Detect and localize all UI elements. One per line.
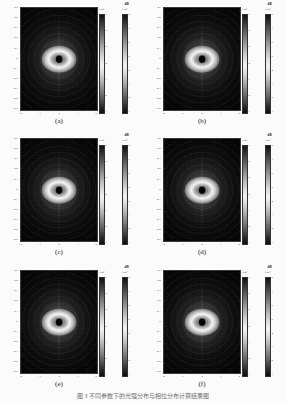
colorbar-multiplier-label: ×10⁴ — [122, 139, 127, 142]
panel-a: 0.50.40.30.20.10-0.1-0.2-0.3-0.4-0.5-2-1… — [0, 0, 143, 131]
colorbar-tick-label: 6 — [129, 173, 130, 176]
x-tick-label: 0 — [59, 112, 60, 115]
colorbar-tick-label: 6 — [272, 305, 273, 308]
colorbar-tick-label: 7 — [272, 28, 273, 31]
colorbar-tick-label: 2 — [106, 95, 107, 98]
y-tick-label: 0.4 — [14, 148, 19, 151]
y-tick-label: -0.1 — [156, 331, 162, 334]
colorbar-tick-label: 4 — [129, 333, 130, 336]
colorbar-tick-label: 2 — [249, 95, 250, 98]
colorbar-multiplier-label: ×10⁴ — [265, 8, 270, 11]
colorbar-unit-label: dB — [125, 3, 129, 6]
colorbar-tick-label: 2 — [272, 360, 273, 363]
colorbar-ticks: 87654321 — [272, 277, 273, 377]
x-tick-label: -2 — [163, 112, 165, 115]
heatmap-field — [21, 8, 97, 110]
colorbar-multiplier-label: ×10⁴ — [99, 8, 104, 11]
colorbar-gradient — [265, 14, 271, 114]
colorbar-tick-label: 3 — [129, 346, 130, 349]
colorbar-tick-label: 8 — [129, 14, 130, 17]
colorbar-tick-label: 3 — [106, 79, 107, 82]
colorbar-tick-label: 4 — [272, 333, 273, 336]
colorbar-tick-label: 7 — [106, 277, 107, 280]
panel-d: 0.50.40.30.20.10-0.1-0.2-0.3-0.4-0.5-2-1… — [143, 131, 286, 262]
colorbar-tick-label: 7 — [249, 145, 250, 148]
x-tick-label: 2 — [239, 112, 240, 115]
y-tick-label: -0.5 — [156, 371, 162, 374]
x-tick-label: -1 — [181, 112, 183, 115]
colorbar-tick-label: 6 — [272, 173, 273, 176]
colorbar-unit-label: dB — [268, 3, 272, 6]
colorbar-tick-label: 3 — [129, 83, 130, 86]
x-tick-label: 0 — [59, 243, 60, 246]
y-tick-label: -0.2 — [156, 209, 162, 212]
colorbar-tick-label: 4 — [272, 201, 273, 204]
y-tick-label: -0.4 — [13, 229, 19, 232]
colorbar-tick-label: 4 — [272, 70, 273, 73]
colorbar-tick-label: 8 — [272, 145, 273, 148]
colorbar-tick-label: 5 — [129, 319, 130, 322]
x-tick-label: 1 — [77, 112, 78, 115]
x-tick-label: -1 — [38, 243, 40, 246]
colorbar-tick-label: 5 — [106, 46, 107, 49]
y-tick-label: -0.2 — [156, 78, 162, 81]
y-axis-ticks: 0.50.40.30.20.10-0.1-0.2-0.3-0.4-0.5 — [0, 270, 19, 374]
y-tick-label: 0.5 — [14, 7, 19, 10]
colorbar-multiplier-label: ×10⁴ — [99, 139, 104, 142]
colorbar-unit-label: dB — [125, 134, 129, 137]
colorbar-tick-label: 5 — [272, 319, 273, 322]
colorbar-gradient — [122, 277, 128, 377]
figure-caption: 图 3 不同参数下的光强分布与相位分布计算结果图 — [0, 392, 286, 403]
colorbar-tick-label: 2 — [129, 97, 130, 100]
y-tick-label: -0.3 — [13, 219, 19, 222]
y-axis-ticks: 0.50.40.30.20.10-0.1-0.2-0.3-0.4-0.5 — [143, 7, 162, 111]
colorbar-tick-label: 6 — [249, 161, 250, 164]
y-tick-label: -0.4 — [156, 229, 162, 232]
y-tick-label: 0.4 — [14, 280, 19, 283]
x-tick-label: 2 — [96, 112, 97, 115]
x-tick-label: 0 — [202, 375, 203, 378]
colorbar-tick-label: 1 — [272, 374, 273, 377]
x-tick-label: 1 — [220, 375, 221, 378]
heatmap-field — [21, 139, 97, 241]
colorbar-tick-label: 2 — [129, 228, 130, 231]
y-tick-label: -0.5 — [13, 371, 19, 374]
x-tick-label: 0 — [59, 375, 60, 378]
y-tick-label: 0.5 — [157, 138, 162, 141]
colorbar-tick-label: 3 — [272, 346, 273, 349]
y-tick-label: 0 — [159, 189, 162, 192]
y-tick-label: 0.2 — [157, 168, 162, 171]
colorbar-multiplier-label: ×10⁴ — [242, 8, 247, 11]
colorbar-gradient — [99, 14, 105, 114]
y-tick-label: 0.4 — [157, 280, 162, 283]
y-tick-label: 0.1 — [14, 179, 19, 182]
x-tick-label: 0 — [202, 243, 203, 246]
x-tick-label: -2 — [163, 375, 165, 378]
y-tick-label: 0.3 — [157, 290, 162, 293]
colorbar-ticks: 87654321 — [129, 277, 130, 377]
y-tick-label: -0.1 — [156, 199, 162, 202]
x-tick-label: 1 — [220, 112, 221, 115]
colorbar-tick-label: 2 — [249, 226, 250, 229]
colorbar-tick-label: 1 — [106, 374, 107, 377]
colorbar-unit-label: dB — [268, 134, 272, 137]
y-tick-label: 0.2 — [157, 37, 162, 40]
y-tick-label: 0.3 — [14, 290, 19, 293]
heatmap-axes — [163, 138, 241, 242]
colorbar-tick-label: 2 — [272, 228, 273, 231]
y-tick-label: 0.4 — [157, 148, 162, 151]
colorbar-tick-label: 3 — [272, 214, 273, 217]
colorbar-tick-label: 1 — [106, 111, 107, 114]
colorbar-tick-label: 5 — [272, 187, 273, 190]
y-tick-label: -0.3 — [156, 351, 162, 354]
noise-grain — [21, 139, 97, 241]
y-tick-label: -0.2 — [13, 341, 19, 344]
colorbar-tick-label: 1 — [129, 111, 130, 114]
colorbar-tick-label: 1 — [272, 242, 273, 245]
y-tick-label: 0.1 — [157, 179, 162, 182]
colorbar-tick-label: 8 — [272, 14, 273, 17]
colorbar-tick-label: 1 — [249, 374, 250, 377]
y-tick-label: -0.3 — [156, 219, 162, 222]
y-tick-label: 0 — [16, 189, 19, 192]
colorbar-tick-label: 3 — [249, 210, 250, 213]
